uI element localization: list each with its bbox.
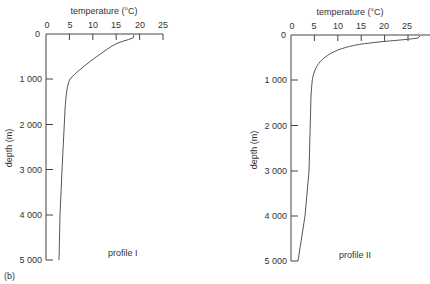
y-tick-label: 5 000 (19, 255, 42, 265)
y-tick-label: 3 000 (264, 166, 287, 176)
figure-label: (b) (4, 271, 15, 281)
x-tick-label: 15 (356, 21, 366, 31)
y-tick-label: 4 000 (264, 211, 287, 221)
profile-1-curve (59, 35, 134, 260)
x-tick-label: 25 (402, 21, 412, 31)
x-axis-title: temperature (°C) (316, 7, 383, 17)
y-tick-label: 2 000 (264, 121, 287, 131)
profile-2-curve (298, 36, 420, 261)
chart-profile-1: temperature (°C) 0 5 10 15 20 25 0 1 0 (4, 6, 168, 265)
profile-label: profile II (339, 250, 371, 260)
chart-profile-2: temperature (°C) 0 5 10 15 20 25 0 1 0 (249, 7, 430, 266)
x-tick-label: 10 (88, 20, 98, 30)
x-tick-label: 25 (158, 20, 168, 30)
x-axis-title: temperature (°C) (70, 6, 137, 16)
x-tick-label: 0 (44, 20, 49, 30)
x-tick-label: 5 (311, 21, 316, 31)
y-tick-label: 1 000 (264, 75, 287, 85)
profile-label: profile I (108, 248, 138, 258)
y-tick-label: 4 000 (19, 210, 42, 220)
y-tick-label: 2 000 (19, 120, 42, 130)
figure: temperature (°C) 0 5 10 15 20 25 0 1 0 (0, 0, 430, 284)
y-axis-title: depth (m) (4, 129, 14, 168)
y-tick-label: 0 (281, 30, 286, 40)
y-axis-title: depth (m) (249, 131, 259, 170)
y-ticks (46, 79, 53, 260)
y-tick-label: 3 000 (19, 165, 42, 175)
y-tick-label: 1 000 (19, 74, 42, 84)
x-tick-label: 0 (289, 21, 294, 31)
x-ticks (69, 34, 163, 40)
x-tick-label: 20 (135, 20, 145, 30)
x-tick-label: 10 (333, 21, 343, 31)
x-tick-label: 5 (67, 20, 72, 30)
y-tick-label: 5 000 (264, 256, 287, 266)
x-tick-label: 15 (111, 20, 121, 30)
y-tick-label: 0 (35, 29, 40, 39)
y-ticks (291, 80, 298, 261)
x-tick-label: 20 (379, 21, 389, 31)
